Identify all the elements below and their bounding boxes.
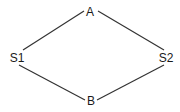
node-s1: S1 <box>10 52 25 64</box>
node-s2: S2 <box>159 52 174 64</box>
diagram-canvas: A S1 S2 B <box>0 0 180 112</box>
node-a: A <box>86 6 94 18</box>
node-b: B <box>87 95 95 107</box>
edge-s1-b <box>19 65 85 100</box>
edge-a-s1 <box>23 11 84 50</box>
edge-a-s2 <box>98 11 164 50</box>
edge-s2-b <box>97 65 164 100</box>
